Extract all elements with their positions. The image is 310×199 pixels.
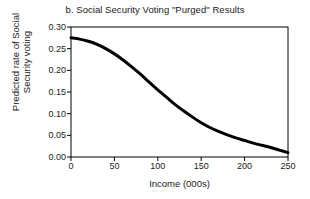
plot-area: [0, 0, 310, 199]
data-series-line: [71, 38, 288, 153]
chart-figure: b. Social Security Voting "Purged" Resul…: [0, 0, 310, 199]
x-tick-marks: [71, 157, 288, 161]
y-tick-marks: [67, 27, 71, 157]
